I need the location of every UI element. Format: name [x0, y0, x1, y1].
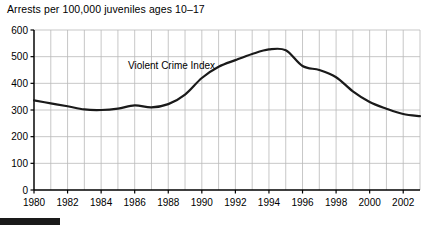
series-annotation-label: Violent Crime Index [128, 60, 215, 71]
bottom-edge-bar [0, 218, 60, 225]
y-tick-label: 200 [11, 131, 28, 142]
x-tick-label: 1994 [258, 197, 281, 208]
y-tick-label: 100 [11, 158, 28, 169]
line-chart-plot: 0100200300400500600 19801982198419861988… [0, 0, 432, 225]
y-tick-label: 600 [11, 25, 28, 36]
x-tick-label: 1982 [56, 197, 79, 208]
axis-lines [31, 30, 421, 194]
x-tick-label: 1986 [124, 197, 147, 208]
x-tick-label: 2000 [359, 197, 382, 208]
x-tick-label: 1980 [23, 197, 46, 208]
series-line-violent-crime-index [34, 49, 420, 117]
chart-figure: Arrests per 100,000 juveniles ages 10–17… [0, 0, 432, 225]
y-axis-tick-labels: 0100200300400500600 [11, 25, 28, 196]
x-tick-label: 1996 [291, 197, 314, 208]
y-tick-label: 0 [22, 185, 28, 196]
y-tick-label: 500 [11, 51, 28, 62]
series-annotation-layer: Violent Crime Index [128, 60, 215, 71]
x-tick-label: 1992 [224, 197, 247, 208]
x-tick-label: 1988 [157, 197, 180, 208]
x-tick-label: 1998 [325, 197, 348, 208]
x-tick-label: 2002 [392, 197, 415, 208]
y-tick-label: 400 [11, 78, 28, 89]
y-tick-label: 300 [11, 105, 28, 116]
x-tick-label: 1984 [90, 197, 113, 208]
data-series-layer [34, 49, 420, 117]
x-tick-label: 1990 [191, 197, 214, 208]
x-axis-tick-labels: 1980198219841986198819901992199419961998… [23, 197, 415, 208]
